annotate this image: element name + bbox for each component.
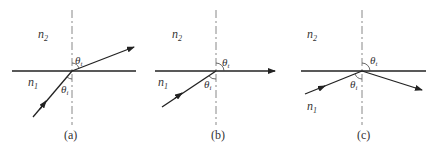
medium-n1-label: n1 bbox=[158, 75, 168, 91]
medium-n1-label: n1 bbox=[307, 99, 317, 115]
reflected-ray bbox=[362, 71, 422, 90]
angle-arc-transmitted bbox=[362, 63, 370, 71]
caption-a: (a) bbox=[64, 128, 77, 142]
panel-b: n2 n1 θt θi (b) bbox=[155, 10, 275, 142]
angle-arc-incident bbox=[355, 74, 362, 79]
angle-arc-incident bbox=[67, 77, 72, 79]
incident-arrow-icon bbox=[40, 101, 46, 109]
incident-arrow-icon bbox=[175, 93, 182, 98]
refraction-diagram: n2 n1 θt θi (a) n2 n1 θt θi (b) n2 n1 θt… bbox=[0, 0, 434, 150]
theta-t-label: θt bbox=[222, 56, 230, 70]
medium-n2-label: n2 bbox=[307, 27, 317, 43]
panel-a: n2 n1 θt θi (a) bbox=[12, 10, 136, 142]
theta-t-label: θt bbox=[370, 54, 378, 68]
angle-arc-incident bbox=[209, 76, 216, 79]
theta-i-label: θi bbox=[350, 78, 357, 92]
panel-c: n2 n1 θt θi (c) bbox=[301, 10, 426, 142]
caption-b: (b) bbox=[211, 128, 225, 142]
medium-n1-label: n1 bbox=[28, 75, 38, 91]
medium-n2-label: n2 bbox=[172, 27, 182, 43]
medium-n2-label: n2 bbox=[38, 27, 48, 43]
incident-arrow-icon bbox=[318, 86, 325, 89]
theta-i-label: θi bbox=[61, 83, 68, 97]
theta-t-label: θt bbox=[75, 54, 83, 68]
theta-i-label: θi bbox=[204, 78, 211, 92]
caption-c: (c) bbox=[357, 128, 370, 142]
